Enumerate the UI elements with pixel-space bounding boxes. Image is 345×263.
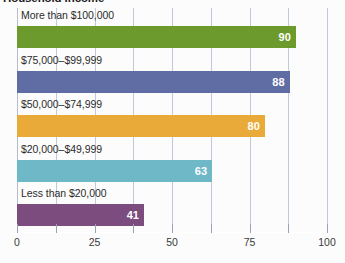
plot-area: More than $100,00090$75,000–$99,99988$50… xyxy=(17,8,327,232)
chart-title: Household Income xyxy=(3,0,104,4)
bar-value-label: 90 xyxy=(279,31,296,43)
x-tick xyxy=(172,224,173,233)
x-tick xyxy=(56,224,57,233)
bar[interactable]: 88 xyxy=(17,71,290,93)
x-tick xyxy=(288,224,289,233)
x-axis: 0255075100 xyxy=(17,232,327,263)
bar-value-label: 41 xyxy=(127,209,144,221)
x-tick-label: 75 xyxy=(244,236,256,248)
bar-category-label: More than $100,000 xyxy=(21,9,114,21)
bar-category-label: $50,000–$74,999 xyxy=(21,98,102,110)
bar-row: $75,000–$99,99988 xyxy=(17,53,327,98)
bar[interactable]: 80 xyxy=(17,115,265,137)
bar-value-label: 88 xyxy=(272,76,289,88)
bar[interactable]: 63 xyxy=(17,160,212,182)
bar-value-label: 80 xyxy=(248,120,265,132)
x-tick xyxy=(211,224,212,233)
gridline-100 xyxy=(327,8,328,232)
bar-row: $20,000–$49,99963 xyxy=(17,142,327,187)
bar-row: More than $100,00090 xyxy=(17,8,327,53)
bar-row: $50,000–$74,99980 xyxy=(17,97,327,142)
x-tick xyxy=(327,224,328,233)
bar-category-label: $75,000–$99,999 xyxy=(21,54,102,66)
bar-category-label: $20,000–$49,999 xyxy=(21,143,102,155)
x-tick xyxy=(95,224,96,233)
x-tick xyxy=(133,224,134,233)
bar[interactable]: 90 xyxy=(17,26,296,48)
x-tick xyxy=(250,224,251,233)
x-tick-label: 100 xyxy=(318,236,336,248)
x-tick-label: 0 xyxy=(14,236,20,248)
x-tick-label: 25 xyxy=(89,236,101,248)
x-tick xyxy=(17,224,18,233)
household-income-bar-chart: Household Income More than $100,00090$75… xyxy=(0,0,345,263)
bar[interactable]: 41 xyxy=(17,204,144,226)
bar-value-label: 63 xyxy=(195,165,212,177)
x-tick-label: 50 xyxy=(166,236,178,248)
bar-category-label: Less than $20,000 xyxy=(21,187,107,199)
